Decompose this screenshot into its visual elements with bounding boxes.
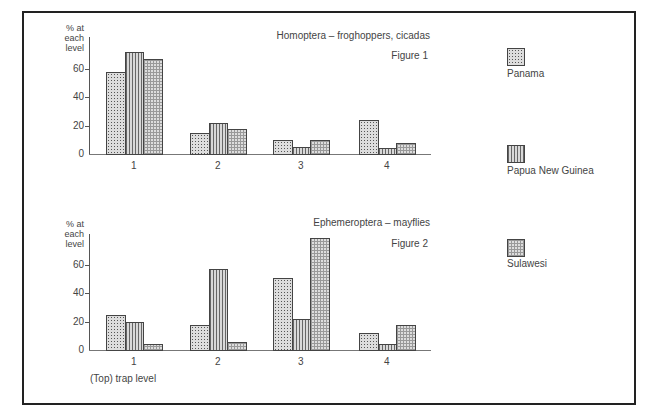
y-axis-label-line: % at bbox=[52, 23, 84, 33]
legend-swatch-sulawesi bbox=[507, 239, 525, 257]
y-axis bbox=[89, 37, 90, 154]
x-tick-label: 1 bbox=[124, 160, 144, 171]
bar-papua-new-guinea-level-2 bbox=[209, 123, 229, 155]
bar-panama-level-4 bbox=[359, 333, 379, 351]
y-tick-label: 0 bbox=[64, 148, 84, 159]
bar-panama-level-2 bbox=[190, 325, 210, 352]
bar-panama-level-4 bbox=[359, 120, 379, 155]
bar-sulawesi-level-3 bbox=[310, 238, 330, 351]
bar-papua-new-guinea-level-4 bbox=[378, 344, 398, 351]
y-tick-label: 20 bbox=[64, 316, 84, 327]
y-tick-label: 40 bbox=[64, 287, 84, 298]
bar-papua-new-guinea-level-4 bbox=[378, 148, 398, 155]
legend-label-papua-new-guinea: Papua New Guinea bbox=[507, 165, 594, 176]
legend-label-sulawesi: Sulawesi bbox=[507, 258, 547, 269]
bar-papua-new-guinea-level-1 bbox=[125, 322, 145, 351]
bar-sulawesi-level-2 bbox=[227, 129, 247, 156]
chart-title: Homoptera – froghoppers, cicadas bbox=[277, 30, 430, 41]
y-tick-mark bbox=[85, 265, 89, 266]
y-tick-label: 60 bbox=[64, 63, 84, 74]
bar-sulawesi-level-3 bbox=[310, 140, 330, 155]
bar-papua-new-guinea-level-3 bbox=[292, 147, 312, 155]
legend-swatch-papua-new-guinea bbox=[507, 145, 525, 163]
y-axis-label: % ateachlevel bbox=[52, 23, 84, 53]
x-tick-label: 1 bbox=[124, 356, 144, 367]
bar-panama-level-2 bbox=[190, 133, 210, 155]
y-axis-label-line: level bbox=[52, 239, 84, 249]
bar-sulawesi-level-1 bbox=[143, 344, 163, 351]
y-tick-mark bbox=[85, 293, 89, 294]
figure-label: Figure 1 bbox=[391, 50, 428, 61]
x-tick-label: 4 bbox=[377, 160, 397, 171]
bar-panama-level-3 bbox=[273, 140, 293, 155]
x-tick-label: 4 bbox=[377, 356, 397, 367]
x-tick-label: 3 bbox=[291, 160, 311, 171]
figure-label: Figure 2 bbox=[391, 238, 428, 249]
bar-panama-level-1 bbox=[106, 315, 126, 351]
y-tick-label: 20 bbox=[64, 120, 84, 131]
legend-swatch-panama bbox=[507, 48, 525, 66]
y-axis-label-line: % at bbox=[52, 219, 84, 229]
bar-sulawesi-level-2 bbox=[227, 342, 247, 352]
y-tick-mark bbox=[85, 69, 89, 70]
y-axis-label-line: level bbox=[52, 43, 84, 53]
legend-label-panama: Panama bbox=[507, 68, 544, 79]
y-tick-label: 0 bbox=[64, 344, 84, 355]
bar-papua-new-guinea-level-1 bbox=[125, 52, 145, 155]
x-tick-label: 2 bbox=[208, 356, 228, 367]
chart-title: Ephemeroptera – mayflies bbox=[313, 217, 430, 228]
bar-sulawesi-level-4 bbox=[396, 325, 416, 352]
x-axis-label: (Top) trap level bbox=[90, 373, 156, 384]
bar-sulawesi-level-1 bbox=[143, 59, 163, 155]
y-tick-mark bbox=[85, 126, 89, 127]
bar-sulawesi-level-4 bbox=[396, 143, 416, 155]
y-axis-label-line: each bbox=[52, 33, 84, 43]
bar-papua-new-guinea-level-3 bbox=[292, 319, 312, 351]
y-tick-mark bbox=[85, 97, 89, 98]
x-tick-label: 2 bbox=[208, 160, 228, 171]
bar-panama-level-1 bbox=[106, 72, 126, 155]
x-tick-label: 3 bbox=[291, 356, 311, 367]
y-tick-mark bbox=[85, 322, 89, 323]
y-tick-label: 60 bbox=[64, 259, 84, 270]
y-axis bbox=[89, 234, 90, 350]
bar-panama-level-3 bbox=[273, 278, 293, 351]
y-axis-label: % ateachlevel bbox=[52, 219, 84, 249]
bar-papua-new-guinea-level-2 bbox=[209, 269, 229, 351]
y-tick-label: 40 bbox=[64, 91, 84, 102]
y-axis-label-line: each bbox=[52, 229, 84, 239]
